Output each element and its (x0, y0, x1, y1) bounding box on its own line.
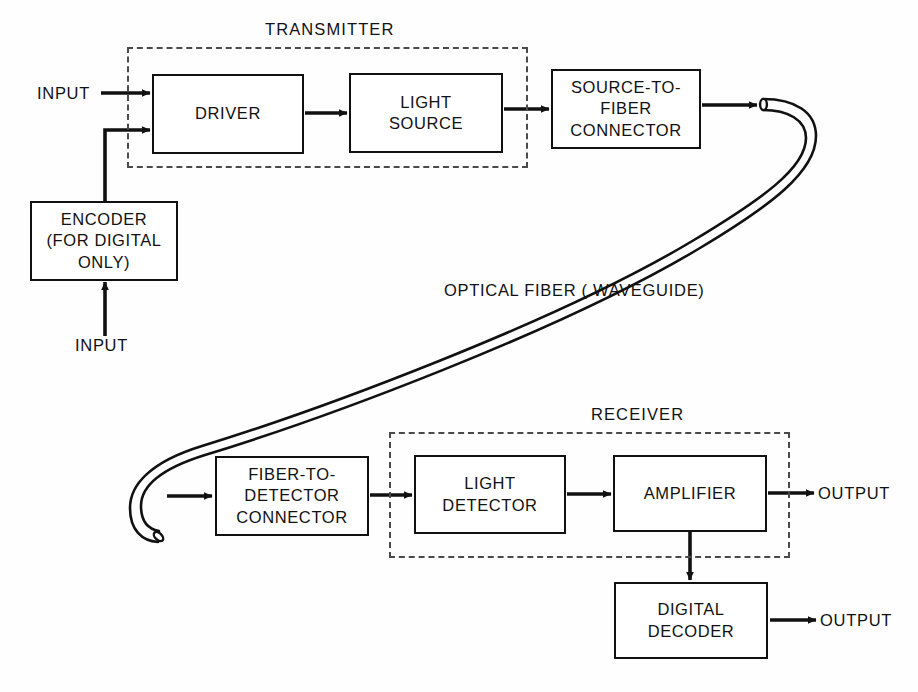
label-output-digital: OUTPUT (820, 611, 892, 630)
fiber-tip-source (760, 99, 767, 110)
block-light-detector[interactable]: LIGHT DETECTOR (414, 455, 566, 534)
block-source-to-fiber-connector[interactable]: SOURCE-TO- FIBER CONNECTOR (551, 69, 701, 149)
block-driver[interactable]: DRIVER (152, 74, 304, 154)
label-optical-fiber: OPTICAL FIBER ( WAVEGUIDE) (444, 281, 705, 300)
block-light-source[interactable]: LIGHT SOURCE (349, 73, 503, 153)
label-output-analog: OUTPUT (818, 484, 890, 503)
receiver-group-label: RECEIVER (591, 405, 684, 424)
block-fiber-to-detector-connector[interactable]: FIBER-TO- DETECTOR CONNECTOR (215, 456, 369, 536)
label-input-digital: INPUT (75, 336, 128, 355)
diagram-canvas: TRANSMITTER RECEIVER DRIVER LIGHT SOURCE… (0, 0, 918, 692)
block-encoder[interactable]: ENCODER (FOR DIGITAL ONLY) (30, 201, 178, 281)
label-input-analog: INPUT (37, 84, 90, 103)
transmitter-group-label: TRANSMITTER (265, 20, 394, 39)
block-amplifier[interactable]: AMPLIFIER (613, 455, 767, 532)
block-digital-decoder[interactable]: DIGITAL DECODER (614, 582, 768, 659)
